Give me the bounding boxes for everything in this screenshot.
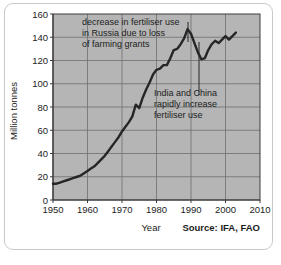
y-tick-label-160: 160 [32,9,48,20]
y-tick-label-140: 140 [32,32,48,43]
x-axis-title: Year [141,222,160,233]
y-tick-label-40: 40 [37,148,48,159]
india-china-annotation-line-1: India and China [154,88,217,98]
x-tick-label-1960: 1960 [77,204,98,215]
x-tick-label-1990: 1990 [180,204,201,215]
x-tick-label-1980: 1980 [146,204,167,215]
y-axis-title: Million tonnes [8,82,19,140]
chart-svg: 020406080100120140160 195019601970198019… [0,0,281,265]
y-axis-ticks: 020406080100120140160 [32,9,53,206]
x-tick-label-2010: 2010 [249,204,270,215]
x-tick-label-2000: 2000 [215,204,236,215]
x-tick-label-1950: 1950 [42,204,63,215]
russia-annotation-line-3: of farming grants [82,39,150,49]
x-axis-ticks: 1950196019701980199020002010 [42,200,270,215]
russia-annotation-line-1: decrease in fertiliser use [82,17,180,27]
russia-annotation-line-2: in Russia due to loss [82,28,166,38]
india-china-annotation-line-3: fertiliser use [154,110,203,120]
x-tick-label-1970: 1970 [111,204,132,215]
india-china-annotation-line-2: rapidly increase [154,99,217,109]
y-tick-label-20: 20 [37,171,48,182]
y-tick-label-100: 100 [32,78,48,89]
y-tick-label-60: 60 [37,125,48,136]
fertiliser-use-line-chart: 020406080100120140160 195019601970198019… [0,0,281,265]
source-label: Source: IFA, FAO [182,222,260,233]
y-tick-label-80: 80 [37,102,48,113]
y-tick-label-120: 120 [32,55,48,66]
